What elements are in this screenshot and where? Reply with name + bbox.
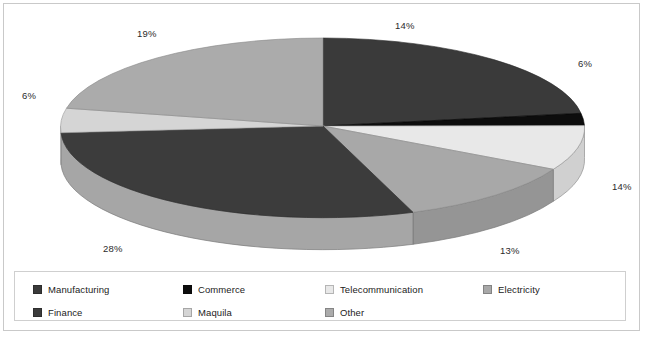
label-manufacturing-pct: 14% (395, 20, 415, 31)
legend-swatch-maquila-icon (183, 308, 192, 317)
legend-item-commerce[interactable]: Commerce (183, 283, 245, 295)
label-maquila-pct: 6% (22, 90, 36, 101)
label-commerce-pct: 6% (578, 58, 592, 69)
legend-label-manufacturing: Manufacturing (48, 284, 110, 295)
legend-swatch-other-icon (325, 308, 334, 317)
label-finance-pct: 28% (103, 243, 123, 254)
slice-manufacturing (323, 38, 581, 126)
chart-legend: Manufacturing Commerce Telecommunication… (14, 271, 626, 321)
legend-swatch-telecommunication-icon (325, 285, 334, 294)
legend-label-other: Other (340, 307, 364, 318)
label-electricity-pct: 13% (500, 245, 520, 256)
legend-item-manufacturing[interactable]: Manufacturing (33, 283, 110, 295)
legend-label-electricity: Electricity (498, 284, 540, 295)
legend-item-electricity[interactable]: Electricity (483, 283, 540, 295)
pie-3d-graphic (0, 0, 646, 266)
legend-swatch-finance-icon (33, 308, 42, 317)
legend-label-finance: Finance (48, 307, 83, 318)
legend-label-telecommunication: Telecommunication (340, 284, 423, 295)
legend-item-finance[interactable]: Finance (33, 306, 83, 318)
legend-item-maquila[interactable]: Maquila (183, 306, 232, 318)
pie-plot-area: 14% 6% 14% 13% 28% 6% 19% (0, 0, 646, 266)
legend-swatch-commerce-icon (183, 285, 192, 294)
legend-item-telecommunication[interactable]: Telecommunication (325, 283, 423, 295)
label-other-pct: 19% (137, 28, 157, 39)
legend-label-maquila: Maquila (198, 307, 232, 318)
pie-top-face (61, 38, 585, 218)
legend-swatch-electricity-icon (483, 285, 492, 294)
legend-label-commerce: Commerce (198, 284, 245, 295)
legend-item-other[interactable]: Other (325, 306, 364, 318)
legend-swatch-manufacturing-icon (33, 285, 42, 294)
label-telecommunication-pct: 14% (612, 181, 632, 192)
pie-chart-figure: 14% 6% 14% 13% 28% 6% 19% Manufacturing … (0, 0, 646, 337)
